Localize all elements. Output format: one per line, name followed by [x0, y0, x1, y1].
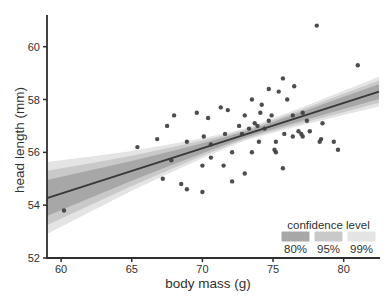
data-point: [301, 134, 305, 138]
data-point: [240, 132, 244, 136]
legend-swatch-80-icon: [282, 232, 310, 242]
data-point: [269, 113, 273, 117]
data-point: [308, 129, 312, 133]
y-axis-title: head length (mm): [12, 87, 27, 193]
data-point: [209, 142, 213, 146]
confidence-bands-layer: [47, 77, 379, 234]
data-point: [301, 111, 305, 115]
data-point: [258, 111, 262, 115]
data-point: [185, 140, 189, 144]
data-point: [257, 140, 261, 144]
data-point: [202, 134, 206, 138]
y-tick-label: 52: [28, 252, 40, 264]
data-point: [185, 187, 189, 191]
data-point: [206, 116, 210, 120]
data-point: [200, 190, 204, 194]
legend-label-80: 80%: [284, 243, 307, 255]
data-point: [200, 163, 204, 167]
data-point: [318, 140, 322, 144]
data-point: [237, 124, 241, 128]
data-point: [250, 97, 254, 101]
data-point: [292, 84, 296, 88]
x-tick-label: 60: [55, 263, 67, 275]
legend-label-99: 99%: [350, 243, 373, 255]
legend-swatch-95-icon: [315, 232, 343, 242]
data-point: [277, 89, 281, 93]
y-tick-label: 58: [28, 94, 40, 106]
y-tick-label: 56: [28, 146, 40, 158]
data-point: [274, 140, 278, 144]
data-point: [172, 113, 176, 117]
data-point: [62, 208, 66, 212]
data-point: [305, 119, 309, 123]
x-tick-label: 75: [267, 263, 279, 275]
data-point: [285, 97, 289, 101]
legend-label-95: 95%: [317, 243, 340, 255]
data-point: [255, 124, 259, 128]
x-tick-label: 80: [338, 263, 350, 275]
x-axis-title: body mass (g): [165, 276, 251, 291]
plot-canvas: 60657075805254565860 body mass (g) head …: [0, 0, 387, 304]
data-point: [315, 23, 319, 27]
data-point: [161, 177, 165, 181]
data-point: [274, 150, 278, 154]
data-point: [226, 108, 230, 112]
data-point: [155, 137, 159, 141]
data-point: [260, 103, 264, 107]
legend-title: confidence level: [287, 219, 369, 231]
data-point: [243, 171, 247, 175]
data-point: [267, 119, 271, 123]
data-point: [281, 166, 285, 170]
data-point: [219, 105, 223, 109]
y-tick-label: 60: [28, 41, 40, 53]
legend: confidence level 80% 95% 99%: [282, 219, 376, 255]
data-point: [209, 155, 213, 159]
data-point: [221, 163, 225, 167]
data-point: [230, 150, 234, 154]
data-point: [230, 179, 234, 183]
data-point: [281, 76, 285, 80]
data-point: [336, 148, 340, 152]
data-point: [267, 87, 271, 91]
data-point: [262, 126, 266, 130]
legend-swatch-99-icon: [348, 232, 376, 242]
y-tick-label: 54: [28, 199, 40, 211]
data-point: [223, 132, 227, 136]
data-point: [282, 132, 286, 136]
x-tick-label: 65: [126, 263, 138, 275]
data-point: [291, 134, 295, 138]
data-point: [250, 150, 254, 154]
data-point: [291, 113, 295, 117]
data-point: [243, 113, 247, 117]
data-point: [332, 140, 336, 144]
data-point: [165, 124, 169, 128]
data-point: [320, 121, 324, 125]
x-tick-label: 70: [196, 263, 208, 275]
data-point: [356, 63, 360, 67]
data-point: [179, 182, 183, 186]
data-point: [169, 158, 173, 162]
data-point: [247, 126, 251, 130]
scatter-plot-figure: 60657075805254565860 body mass (g) head …: [0, 0, 387, 304]
data-point: [135, 145, 139, 149]
data-point: [195, 111, 199, 115]
